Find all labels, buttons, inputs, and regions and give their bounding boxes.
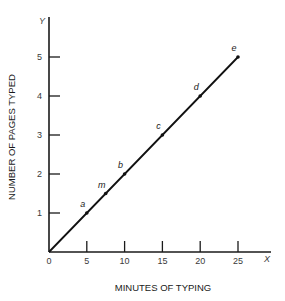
point-label-d: d — [194, 82, 200, 92]
y-tick-label: 1 — [37, 208, 42, 218]
point-label-b: b — [118, 160, 123, 170]
x-axis-title: MINUTES OF TYPING — [115, 282, 211, 293]
x-tick-label: 0 — [46, 256, 51, 266]
x-tick-label: 5 — [84, 256, 89, 266]
x-tick-label: 20 — [195, 256, 205, 266]
data-point-b — [123, 172, 127, 176]
data-point-d — [198, 94, 202, 98]
series-line — [49, 57, 238, 252]
x-ticks: 0510152025 — [46, 241, 243, 266]
data-point-m — [104, 192, 108, 196]
y-tick-label: 4 — [37, 91, 42, 101]
y-tick-label: 5 — [37, 52, 42, 62]
point-label-a: a — [80, 199, 85, 209]
chart: Y X 0510152025 12345 ambcde MINUTES OF T… — [0, 0, 285, 301]
y-tick-label: 3 — [37, 130, 42, 140]
y-axis-title: NUMBER OF PAGES TYPED — [6, 74, 17, 200]
x-tick-label: 15 — [157, 256, 167, 266]
data-point-c — [161, 133, 165, 137]
data-line — [49, 57, 238, 252]
point-label-m: m — [98, 180, 106, 190]
x-tick-label: 25 — [233, 256, 243, 266]
point-label-e: e — [231, 43, 236, 53]
data-points: ambcde — [80, 43, 240, 215]
data-point-a — [85, 211, 89, 215]
y-tick-label: 2 — [37, 169, 42, 179]
y-axis-letter: Y — [39, 16, 46, 26]
x-tick-label: 10 — [120, 256, 130, 266]
data-point-e — [236, 55, 240, 59]
x-axis-letter: X — [263, 254, 271, 264]
point-label-c: c — [156, 121, 161, 131]
